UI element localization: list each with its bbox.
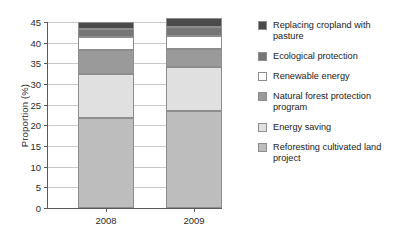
chart-legend: Replacing cropland with pastureEcologica… (258, 20, 403, 173)
legend-item-label: Renewable energy (273, 71, 350, 82)
legend-item[interactable]: Ecological protection (258, 51, 403, 62)
bar-segment[interactable] (78, 37, 134, 50)
y-axis-title: Proportion (%) (19, 46, 30, 186)
legend-item-label: Ecological protection (273, 51, 358, 62)
y-axis-tick (44, 105, 48, 106)
bar-segment[interactable] (166, 36, 222, 48)
legend-swatch-icon (258, 123, 267, 132)
bar-segment[interactable] (166, 18, 222, 27)
legend-item-label: Reforesting cultivated land project (273, 142, 403, 164)
bar-segment[interactable] (78, 22, 134, 29)
stacked-bar-chart: Proportion (%) 0510152025303540452008200… (0, 0, 405, 235)
x-axis-tick-label: 2008 (95, 215, 116, 226)
y-axis-tick (44, 146, 48, 147)
y-axis-tick (44, 125, 48, 126)
y-axis-tick (44, 63, 48, 64)
y-axis-tick (44, 84, 48, 85)
bar-segment[interactable] (78, 29, 134, 37)
y-axis-tick-label: 10 (30, 161, 41, 172)
y-axis-tick-label: 15 (30, 141, 41, 152)
bar-2009[interactable] (166, 22, 222, 208)
legend-swatch-icon (258, 92, 267, 101)
plot-area: 05101520253035404520082009 (47, 22, 222, 209)
legend-item-label: Natural forest protection program (273, 91, 403, 113)
y-axis-tick (44, 208, 48, 209)
bar-segment[interactable] (78, 74, 134, 119)
legend-item-label: Replacing cropland with pasture (273, 20, 403, 42)
x-axis-tick (106, 208, 107, 212)
legend-item[interactable]: Replacing cropland with pasture (258, 20, 403, 42)
bar-segment[interactable] (166, 111, 222, 208)
bar-segment[interactable] (166, 67, 222, 110)
y-axis-tick-label: 0 (36, 203, 41, 214)
y-axis-tick (44, 22, 48, 23)
y-axis-tick-label: 30 (30, 79, 41, 90)
bar-segment[interactable] (78, 50, 134, 74)
legend-item[interactable]: Energy saving (258, 122, 403, 133)
x-axis-tick (194, 208, 195, 212)
bar-segment[interactable] (166, 27, 222, 37)
y-axis-tick (44, 187, 48, 188)
legend-swatch-icon (258, 143, 267, 152)
y-axis-tick-label: 20 (30, 120, 41, 131)
y-axis-tick-label: 45 (30, 17, 41, 28)
legend-item[interactable]: Natural forest protection program (258, 91, 403, 113)
y-axis-tick-label: 25 (30, 99, 41, 110)
y-axis-tick-label: 35 (30, 58, 41, 69)
legend-item[interactable]: Reforesting cultivated land project (258, 142, 403, 164)
y-axis-tick-label: 5 (36, 182, 41, 193)
y-axis-tick-label: 40 (30, 37, 41, 48)
legend-swatch-icon (258, 21, 267, 30)
y-axis-tick (44, 167, 48, 168)
legend-swatch-icon (258, 52, 267, 61)
bar-segment[interactable] (166, 49, 222, 68)
y-axis-tick (44, 43, 48, 44)
x-axis-tick-label: 2009 (183, 215, 204, 226)
legend-item-label: Energy saving (273, 122, 331, 133)
bar-2008[interactable] (78, 22, 134, 208)
legend-item[interactable]: Renewable energy (258, 71, 403, 82)
bar-segment[interactable] (78, 118, 134, 208)
legend-swatch-icon (258, 72, 267, 81)
